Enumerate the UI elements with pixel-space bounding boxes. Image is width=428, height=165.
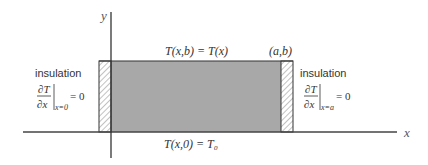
corner-label: (a,b) <box>269 44 292 58</box>
left-derivative-denominator: ∂x <box>37 98 47 110</box>
x-axis-label: x <box>403 125 410 140</box>
right-derivative-numerator: ∂T <box>305 83 317 95</box>
left-insulation-strip <box>99 61 111 132</box>
left-eval-subscript: x=0 <box>54 103 68 112</box>
right-insulation-label: insulation <box>300 67 346 79</box>
right-insulation-strip <box>281 61 293 132</box>
right-eval-subscript: x=a <box>320 103 334 112</box>
domain-region <box>111 61 281 132</box>
heat-conduction-diagram: y x T(x,b) = T(x) (a,b) T(x,0) = T₀ insu… <box>0 0 428 165</box>
bottom-boundary-condition: T(x,0) = T₀ <box>164 137 218 151</box>
left-rhs: = 0 <box>70 90 85 102</box>
right-rhs: = 0 <box>336 90 351 102</box>
left-derivative-numerator: ∂T <box>38 83 50 95</box>
right-derivative-denominator: ∂x <box>304 98 314 110</box>
top-boundary-condition: T(x,b) = T(x) <box>165 44 228 58</box>
left-insulation-label: insulation <box>35 67 81 79</box>
y-axis-label: y <box>99 8 107 23</box>
